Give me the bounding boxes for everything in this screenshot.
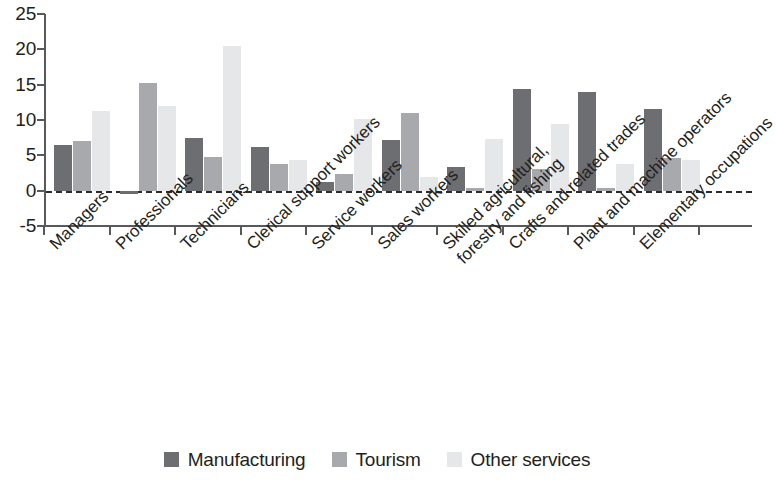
y-axis-tick-label: -5 (2, 216, 36, 235)
x-axis-tick (371, 227, 373, 235)
legend-item[interactable]: Other services (447, 450, 591, 469)
y-axis-tick-label: 0 (2, 181, 36, 200)
x-axis-tick (109, 227, 111, 235)
y-axis-tick-label-wrap: -5 (0, 216, 36, 236)
legend-label: Manufacturing (188, 450, 306, 469)
bar (597, 188, 615, 191)
legend-item[interactable]: Manufacturing (164, 450, 306, 469)
bar (270, 164, 288, 191)
bar (466, 188, 484, 191)
chart-legend: ManufacturingTourismOther services (0, 450, 754, 469)
y-axis-tick (37, 13, 45, 15)
legend-swatch-icon (164, 452, 179, 467)
y-axis-tick-label-wrap: 0 (0, 181, 36, 201)
y-axis-tick (37, 190, 45, 192)
y-axis-tick-label-wrap: 10 (0, 110, 36, 130)
bar (204, 157, 222, 190)
bar (54, 145, 72, 191)
x-axis-tick (240, 227, 242, 235)
y-axis-tick-label-wrap: 25 (0, 4, 36, 24)
bar (120, 191, 138, 194)
y-axis-tick-label: 20 (2, 39, 36, 58)
y-axis-tick-label: 5 (2, 145, 36, 164)
y-axis-tick-label-wrap: 20 (0, 39, 36, 59)
legend-swatch-icon (447, 452, 462, 467)
y-axis-tick-label-wrap: 15 (0, 75, 36, 95)
y-axis-tick-label-wrap: 5 (0, 145, 36, 165)
bar (251, 147, 269, 191)
x-axis-tick (43, 227, 45, 235)
x-axis-tick (567, 227, 569, 235)
bar (73, 141, 91, 190)
y-axis-tick (37, 119, 45, 121)
y-axis-tick (37, 48, 45, 50)
bar (139, 83, 157, 190)
y-axis-tick (37, 154, 45, 156)
y-axis-tick (37, 84, 45, 86)
legend-swatch-icon (332, 452, 347, 467)
bar (335, 174, 353, 191)
y-axis-tick-label: 10 (2, 110, 36, 129)
bar (92, 111, 110, 191)
bar (401, 113, 419, 191)
x-axis-tick (174, 227, 176, 235)
x-axis-tick (436, 227, 438, 235)
legend-item[interactable]: Tourism (332, 450, 421, 469)
x-axis-tick (633, 227, 635, 235)
legend-label: Other services (471, 450, 591, 469)
y-axis-tick-label: 15 (2, 75, 36, 94)
x-axis-tick (698, 227, 700, 235)
y-axis-tick-label: 25 (2, 4, 36, 23)
bar (223, 46, 241, 191)
x-axis-tick (305, 227, 307, 235)
legend-label: Tourism (356, 450, 421, 469)
